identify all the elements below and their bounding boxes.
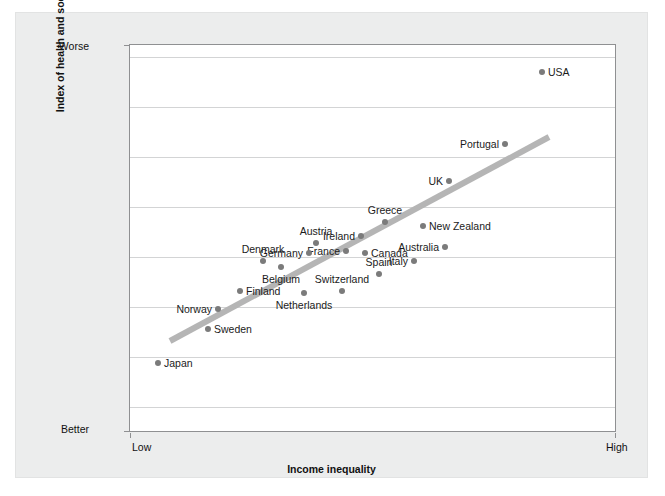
x-axis-title: Income inequality (16, 463, 647, 475)
data-point[interactable] (339, 288, 345, 294)
data-point[interactable] (215, 306, 221, 312)
data-point[interactable] (376, 271, 382, 277)
plot-area: USAPortugalUKNew ZealandGreeceIrelandFra… (129, 44, 616, 432)
data-point[interactable] (260, 258, 266, 264)
x-axis-end-label: High (606, 441, 628, 453)
data-point-label: Japan (164, 357, 193, 369)
data-point[interactable] (358, 233, 364, 239)
data-point[interactable] (155, 360, 161, 366)
data-point-label: Norway (176, 303, 212, 315)
data-point-label: Sweden (214, 323, 252, 335)
data-point-label: Spain (366, 256, 393, 268)
data-point[interactable] (442, 244, 448, 250)
data-point[interactable] (306, 250, 312, 256)
gridline-2 (130, 157, 615, 158)
data-point-label: Greece (368, 204, 402, 216)
data-point[interactable] (205, 326, 211, 332)
data-point-label: Portugal (460, 138, 499, 150)
x-axis-start-label: Low (132, 441, 151, 453)
data-point[interactable] (278, 264, 284, 270)
chart-screenshot: Worse Better Low High Income inequality … (0, 0, 665, 496)
gridline-0 (130, 57, 615, 58)
data-point-label: UK (428, 175, 443, 187)
data-point[interactable] (343, 248, 349, 254)
data-point-label: France (307, 245, 340, 257)
data-point-label: Switzerland (315, 273, 369, 285)
figure-card: Worse Better Low High Income inequality … (15, 12, 648, 478)
data-point-label: Finland (246, 285, 280, 297)
data-point-label: USA (548, 66, 570, 78)
data-point[interactable] (237, 288, 243, 294)
data-point[interactable] (446, 178, 452, 184)
x-axis-tick-end (615, 433, 616, 438)
y-axis-bottom-label: Better (61, 423, 89, 435)
trend-line (130, 45, 617, 433)
data-point[interactable] (539, 69, 545, 75)
data-point-label: Denmark (242, 243, 285, 255)
x-axis-tick-start (130, 433, 131, 438)
data-point[interactable] (313, 240, 319, 246)
data-point[interactable] (301, 290, 307, 296)
gridline-7 (130, 407, 615, 408)
data-point-label: New Zealand (429, 220, 491, 232)
gridline-6 (130, 357, 615, 358)
data-point[interactable] (502, 141, 508, 147)
data-point[interactable] (411, 258, 417, 264)
data-point-label: Austria (300, 225, 333, 237)
data-point-label: Belgium (262, 273, 300, 285)
data-point-label: Netherlands (276, 299, 333, 311)
y-axis-title: Index of health and social problems (54, 0, 66, 133)
gridline-1 (130, 107, 615, 108)
data-point[interactable] (382, 219, 388, 225)
data-point[interactable] (420, 223, 426, 229)
